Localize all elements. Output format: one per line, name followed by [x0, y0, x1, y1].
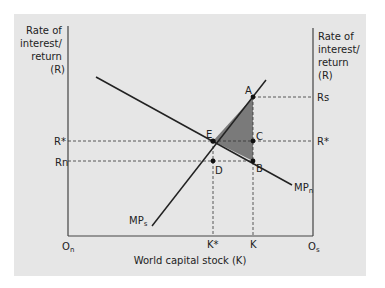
label-mps: MPs: [129, 215, 148, 228]
left-axis-title: Rate of interest/ return (R): [20, 25, 65, 75]
label-k: K: [250, 239, 257, 250]
x-axis-title: World capital stock (K): [134, 255, 247, 266]
label-d: D: [215, 165, 223, 176]
point-d: [211, 159, 216, 164]
right-axis-title: Rate of interest/ return (R): [318, 31, 363, 81]
label-rstar-left: R*: [54, 136, 66, 147]
label-rstar-right: R*: [317, 136, 329, 147]
label-a: A: [245, 85, 252, 96]
label-b: B: [256, 163, 263, 174]
label-rs: Rs: [317, 92, 329, 103]
label-rn: Rn: [55, 157, 68, 168]
shaded-triangle: [213, 97, 253, 161]
label-origin-n: On: [62, 241, 74, 254]
label-c: C: [256, 131, 263, 142]
point-c: [251, 139, 256, 144]
label-e: E: [206, 129, 212, 140]
label-kstar: K*: [207, 239, 219, 250]
chart-svg: Rate of interest/ return (R) Rate of int…: [0, 0, 385, 288]
label-origin-s: Os: [308, 241, 320, 254]
point-b: [251, 159, 256, 164]
label-mpn: MPn: [294, 182, 313, 195]
